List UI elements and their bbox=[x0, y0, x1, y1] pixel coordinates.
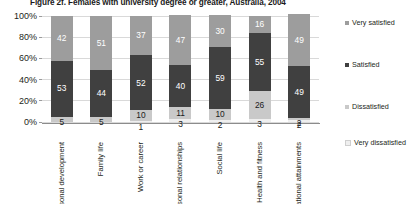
bar-segment-satisfied[interactable]: 55 bbox=[249, 33, 271, 91]
x-axis-label: Personal relationships bbox=[176, 142, 185, 204]
bar-value-label: 3 bbox=[257, 120, 262, 128]
bar-segment-satisfied[interactable]: 53 bbox=[51, 61, 73, 117]
x-axis-label: My educational attainments bbox=[295, 142, 304, 204]
legend-item-very-satisfied[interactable]: Very satisfied bbox=[345, 18, 395, 27]
legend-label: Very dissatisfied bbox=[354, 138, 406, 147]
bar-segment-dissatisfied[interactable]: 11 bbox=[169, 107, 191, 119]
legend-swatch-icon bbox=[345, 140, 351, 146]
stacked-bar[interactable]: 3265516 bbox=[249, 16, 271, 122]
bar-value-label: 5 bbox=[99, 118, 104, 126]
stacked-bar[interactable]: 1105237 bbox=[130, 16, 152, 122]
stacked-bar[interactable]: 224949 bbox=[288, 16, 310, 122]
bar-group[interactable]: 2105930Social life bbox=[200, 16, 240, 122]
stacked-bar[interactable]: 54451 bbox=[90, 16, 112, 122]
legend-swatch-icon bbox=[345, 21, 349, 25]
bar-segment-dissatisfied[interactable]: 10 bbox=[130, 110, 152, 121]
bar-value-label: 16 bbox=[255, 20, 264, 28]
y-axis-label: 80% bbox=[19, 32, 37, 42]
bar-segment-satisfied[interactable]: 44 bbox=[90, 70, 112, 117]
y-axis-label: 60% bbox=[19, 53, 37, 63]
bar-value-label: 30 bbox=[215, 27, 224, 35]
bar-segment-very-satisfied[interactable]: 42 bbox=[51, 16, 73, 61]
x-axis-label: Work or career bbox=[137, 142, 146, 204]
legend-item-satisfied[interactable]: Satisfied bbox=[345, 60, 380, 69]
bar-value-label: 42 bbox=[57, 34, 66, 42]
bar-value-label: 49 bbox=[295, 36, 304, 44]
legend-swatch-icon bbox=[345, 105, 349, 109]
bar-value-label: 37 bbox=[136, 31, 145, 39]
bar-segment-very-dissatisfied[interactable]: 2 bbox=[209, 120, 231, 122]
bar-group[interactable]: 224949My educational attainments bbox=[279, 16, 319, 122]
bar-value-label: 51 bbox=[97, 39, 106, 47]
stacked-bar[interactable]: 55342 bbox=[51, 16, 73, 122]
bar-segment-very-dissatisfied[interactable]: 1 bbox=[130, 121, 152, 122]
stacked-bar[interactable]: 2105930 bbox=[209, 16, 231, 122]
bar-group[interactable]: 3265516Health and fitness bbox=[240, 16, 280, 122]
y-axis-label: 100% bbox=[14, 11, 37, 21]
bar-segment-dissatisfied[interactable]: 5 bbox=[90, 117, 112, 122]
legend-swatch-icon bbox=[345, 63, 349, 67]
bar-segment-very-satisfied[interactable]: 37 bbox=[130, 16, 152, 55]
bar-value-label: 52 bbox=[136, 79, 145, 87]
bar-segment-dissatisfied[interactable]: 5 bbox=[51, 117, 73, 122]
plot-area: 0%20%40%60%80%100%55342Personal developm… bbox=[42, 16, 319, 122]
legend-item-dissatisfied[interactable]: Dissatisfied bbox=[345, 102, 389, 111]
bar-group[interactable]: 1105237Work or career bbox=[121, 16, 161, 122]
bar-value-label: 40 bbox=[176, 82, 185, 90]
bar-segment-very-dissatisfied[interactable]: 3 bbox=[169, 119, 191, 122]
bar-value-label: 26 bbox=[255, 101, 264, 109]
bar-value-label: 53 bbox=[57, 84, 66, 92]
bar-segment-very-dissatisfied[interactable]: 3 bbox=[249, 119, 271, 122]
bar-segment-dissatisfied[interactable]: 10 bbox=[209, 109, 231, 120]
y-axis-label: 20% bbox=[19, 96, 37, 106]
bar-segment-very-satisfied[interactable]: 30 bbox=[209, 15, 231, 47]
legend-label: Very satisfied bbox=[352, 18, 395, 27]
x-axis-label: Personal development bbox=[58, 142, 67, 204]
bar-segment-very-satisfied[interactable]: 47 bbox=[169, 15, 191, 65]
bar-value-label: 10 bbox=[136, 111, 145, 119]
legend-label: Dissatisfied bbox=[352, 102, 389, 111]
bar-value-label: 55 bbox=[255, 58, 264, 66]
bar-value-label: 1 bbox=[139, 123, 144, 131]
bar-segment-dissatisfied[interactable]: 2 bbox=[288, 118, 310, 120]
legend-item-very-dissatisfied[interactable]: Very dissatisfied bbox=[345, 138, 406, 147]
chart-title: Figure 2f. Females with university degre… bbox=[30, 0, 330, 7]
chart-container: Figure 2f. Females with university degre… bbox=[0, 0, 418, 204]
x-axis-label: Social life bbox=[216, 142, 225, 204]
bar-value-label: 11 bbox=[176, 109, 185, 117]
bar-value-label: 10 bbox=[215, 110, 224, 118]
bar-segment-dissatisfied[interactable]: 26 bbox=[249, 91, 271, 119]
stacked-bar[interactable]: 3114047 bbox=[169, 16, 191, 122]
bar-segment-very-satisfied[interactable]: 49 bbox=[288, 14, 310, 66]
y-axis-label: 40% bbox=[19, 75, 37, 85]
x-axis-label: Family life bbox=[97, 142, 106, 204]
bar-value-label: 59 bbox=[215, 74, 224, 82]
bar-group[interactable]: 55342Personal development bbox=[42, 16, 82, 122]
bar-segment-satisfied[interactable]: 40 bbox=[169, 65, 191, 107]
bar-value-label: 47 bbox=[176, 36, 185, 44]
bar-segment-satisfied[interactable]: 49 bbox=[288, 66, 310, 118]
legend-label: Satisfied bbox=[352, 60, 380, 69]
bar-value-label: 49 bbox=[295, 88, 304, 96]
bar-segment-satisfied[interactable]: 52 bbox=[130, 55, 152, 110]
x-axis-label: Health and fitness bbox=[256, 142, 265, 204]
bar-group[interactable]: 54451Family life bbox=[82, 16, 122, 122]
y-axis-label: 0% bbox=[24, 117, 37, 127]
bar-value-label: 2 bbox=[297, 119, 302, 127]
bar-group[interactable]: 3114047Personal relationships bbox=[161, 16, 201, 122]
bar-segment-very-satisfied[interactable]: 51 bbox=[90, 16, 112, 70]
bar-value-label: 44 bbox=[97, 89, 106, 97]
bar-segment-satisfied[interactable]: 59 bbox=[209, 47, 231, 110]
bar-value-label: 5 bbox=[59, 118, 64, 126]
bar-segment-very-satisfied[interactable]: 16 bbox=[249, 16, 271, 33]
bar-value-label: 2 bbox=[218, 121, 223, 129]
bar-value-label: 3 bbox=[178, 120, 183, 128]
